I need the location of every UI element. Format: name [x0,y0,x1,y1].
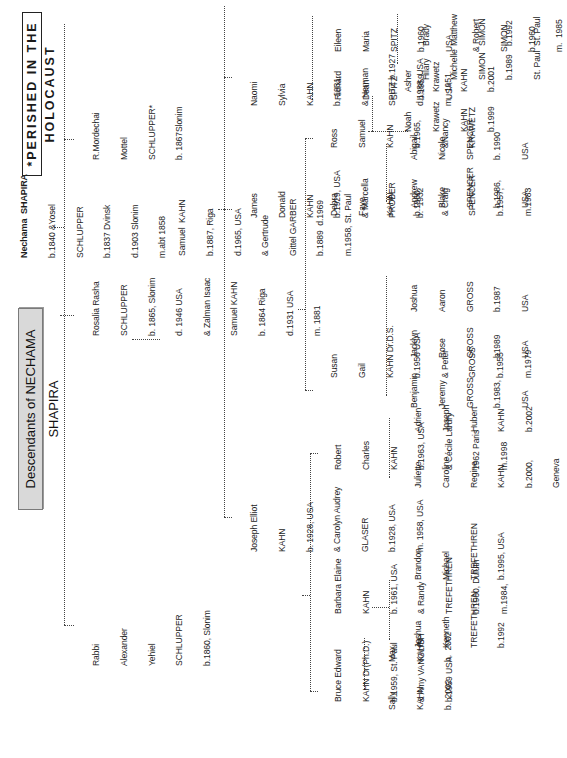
joseph-drop [224,517,232,518]
gen1-drop-right [64,139,74,140]
person-nechama-shapira: Nechama SHAPIRA b.1840 &Yosel SCHLUPPER … [2,174,186,258]
person-juliette-kahn: Juliette Caroline Regine KAHN b.2000, Ge… [396,457,567,488]
person-alexander-schlupper: Rabbi Alexander Yehiel SCHLUPPER b.1860,… [74,610,230,666]
chart-title: Descendants of NECHAMA SHAPIRA [18,308,43,510]
person-jacklyn-gross: Jacklyn Rose GROSS b1989 USA [392,327,548,358]
person-joshua-gross: Joshua Aaron GROSS b.1987 USA [392,281,548,312]
gen1-drop-mid [60,315,74,316]
person-rosalia-schlupper: Rosalia Rasha SCHLUPPER b. 1865, Slonim … [74,278,341,336]
person-sally-kahn: Sally KAHN b. 2002 [370,680,471,710]
person-benjamin-gross: Benjamin Jeremy GROSS b.1983, USA [392,373,548,408]
gen3-connector [224,6,225,518]
susan-drop [305,390,313,391]
gen1-drop-left [64,625,74,626]
person-joshua-trefethren: Joshua Kenneth TREFETHREN b.1992 [396,591,525,648]
person-brandon-trefethren: Brandon Michael TREFETHREN b.1995, USA [396,523,525,580]
gen1-connector [64,24,65,626]
person-brady-simon: Brady Matthew SIMON b.1992 St. Paul [404,14,560,46]
person-andrew-spencer: Andrew Blake SPENCER b.1986, USA [392,167,548,208]
person-hilary-simon: Hilary Michelle SIMON b.1989 St. Paul [404,49,560,80]
person-mordechai-schlupper: R.Mordechai Mottel SCHLUPPER* b. 1867Slo… [74,105,203,160]
person-adrien-kahn: Adrien Joseph Hubert KAHN b.2002 [396,405,552,432]
rosalia-drop [132,339,160,340]
person-noah-kahn: Noah Krawetz KAHN b.1999 [386,102,515,132]
joseph-children-drop [302,595,310,596]
naomi-drop [224,77,232,78]
holocaust-legend: *PERISHED IN THE HOLOCAUST [22,12,42,176]
